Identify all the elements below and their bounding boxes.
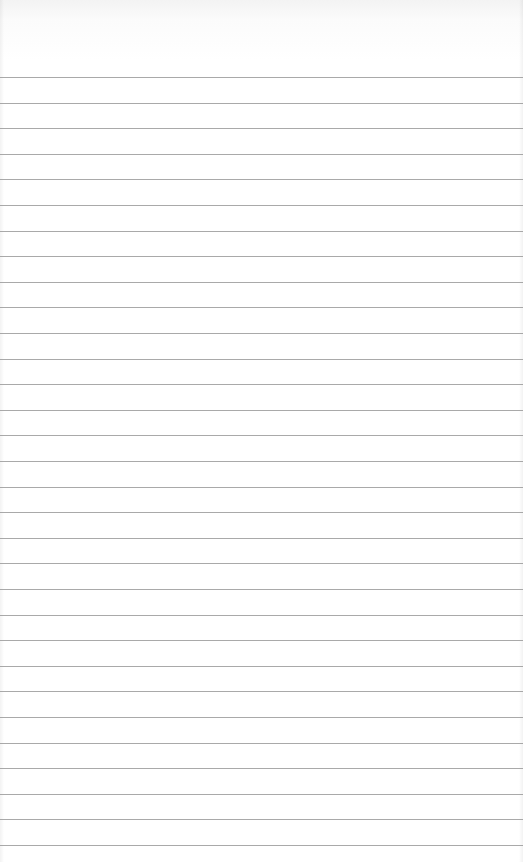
ruled-line <box>0 231 523 232</box>
ruled-line <box>0 717 523 718</box>
ruled-line <box>0 179 523 180</box>
ruled-line <box>0 743 523 744</box>
ruled-paper-page <box>0 0 523 862</box>
ruled-line <box>0 384 523 385</box>
ruled-line <box>0 461 523 462</box>
ruled-line <box>0 359 523 360</box>
ruled-line <box>0 435 523 436</box>
ruled-line <box>0 256 523 257</box>
ruled-line <box>0 282 523 283</box>
ruled-line <box>0 307 523 308</box>
ruled-line <box>0 691 523 692</box>
ruled-line <box>0 794 523 795</box>
ruled-line <box>0 103 523 104</box>
page-left-edge-shadow <box>0 0 4 862</box>
ruled-line <box>0 128 523 129</box>
ruled-line <box>0 410 523 411</box>
ruled-line <box>0 563 523 564</box>
ruled-line <box>0 512 523 513</box>
ruled-line <box>0 589 523 590</box>
ruled-line <box>0 819 523 820</box>
ruled-line <box>0 205 523 206</box>
page-right-edge-shadow <box>519 0 523 862</box>
ruled-line <box>0 487 523 488</box>
ruled-line <box>0 845 523 846</box>
ruled-line <box>0 666 523 667</box>
ruled-line <box>0 333 523 334</box>
ruled-line <box>0 538 523 539</box>
ruled-line <box>0 77 523 78</box>
ruled-line <box>0 640 523 641</box>
ruled-line <box>0 154 523 155</box>
ruled-line <box>0 768 523 769</box>
ruled-line <box>0 615 523 616</box>
